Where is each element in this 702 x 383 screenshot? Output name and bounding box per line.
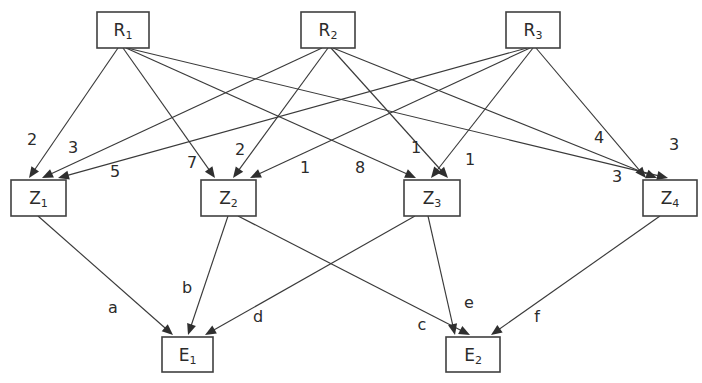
node-label-subscript: 3 <box>434 197 441 210</box>
nodes-layer: R1R2R3Z1Z2Z3Z4E1E2 <box>11 12 697 372</box>
node-e1[interactable]: E1 <box>162 337 213 372</box>
edge-labels-layer: 271332145183abedcf <box>27 128 679 334</box>
edges-layer <box>29 48 668 335</box>
edge-line <box>190 216 228 329</box>
edge-line <box>38 216 168 331</box>
edge-label: a <box>108 298 118 317</box>
edge-label: 8 <box>355 158 365 177</box>
edge-line <box>127 48 662 177</box>
edge-line <box>238 216 465 332</box>
edge-label: e <box>464 293 474 312</box>
arrowhead-icon <box>656 171 668 180</box>
diagram-canvas: R1R2R3Z1Z2Z3Z4E1E2 271332145183abedcf <box>0 0 702 383</box>
edge-line <box>333 48 651 176</box>
edge-label: 2 <box>27 130 37 149</box>
edge-line <box>435 48 533 173</box>
node-r2[interactable]: R2 <box>301 12 355 48</box>
node-r1[interactable]: R1 <box>97 12 149 48</box>
node-label-subscript: 1 <box>125 29 132 42</box>
node-label-subscript: 4 <box>672 197 679 210</box>
edge-r3-z3 <box>431 48 533 178</box>
arrowhead-icon <box>205 326 217 335</box>
edge-label: 5 <box>110 162 120 181</box>
edge-line <box>496 216 660 332</box>
edge-label: 2 <box>235 140 245 159</box>
edge-line <box>210 216 415 332</box>
edge-line <box>428 216 454 329</box>
edge-label: c <box>418 315 427 334</box>
node-label-subscript: 1 <box>189 354 196 367</box>
edge-r1-z1 <box>29 48 118 178</box>
node-label-subscript: 3 <box>535 29 542 42</box>
edge-label: 3 <box>68 138 78 157</box>
edge-label: 1 <box>411 138 421 157</box>
edge-label: 3 <box>669 135 679 154</box>
node-z3[interactable]: Z3 <box>404 180 460 216</box>
edge-r2-z4 <box>333 48 657 178</box>
edge-z2-e1 <box>187 216 228 335</box>
arrowhead-icon <box>187 323 196 335</box>
node-r3[interactable]: R3 <box>506 12 560 48</box>
node-label-subscript: 2 <box>330 29 337 42</box>
arrowhead-icon <box>233 166 243 178</box>
arrowhead-icon <box>645 170 657 179</box>
edge-r3-z1 <box>58 48 527 179</box>
node-z2[interactable]: Z2 <box>201 180 256 216</box>
node-label-subscript: 1 <box>41 197 48 210</box>
edge-label: b <box>182 278 192 297</box>
node-z1[interactable]: Z1 <box>11 180 66 216</box>
edge-z4-e2 <box>491 216 660 335</box>
edge-label: f <box>534 307 540 326</box>
node-z4[interactable]: Z4 <box>643 180 697 216</box>
graph-svg: R1R2R3Z1Z2Z3Z4E1E2 271332145183abedcf <box>0 0 702 383</box>
edge-label: 1 <box>465 150 475 169</box>
edge-label: d <box>253 307 263 326</box>
edge-line <box>536 48 642 173</box>
arrowhead-icon <box>29 166 39 178</box>
edge-z1-e1 <box>38 216 173 335</box>
node-label-subscript: 2 <box>475 354 482 367</box>
arrowhead-icon <box>205 166 215 178</box>
node-label-subscript: 2 <box>231 197 238 210</box>
edge-z3-e1 <box>205 216 415 335</box>
edge-label: 1 <box>300 158 310 177</box>
edge-line <box>331 48 444 174</box>
node-e2[interactable]: E2 <box>446 337 500 372</box>
edge-label: 4 <box>594 128 604 147</box>
edge-r3-z4 <box>536 48 646 178</box>
arrowhead-icon <box>448 323 457 335</box>
edge-z3-e2 <box>428 216 457 335</box>
edge-label: 7 <box>187 153 197 172</box>
edge-label: 3 <box>612 167 622 186</box>
arrowhead-icon <box>58 171 70 180</box>
edge-r1-z4 <box>127 48 668 180</box>
arrowhead-icon <box>491 325 503 335</box>
edge-z2-e2 <box>238 216 470 335</box>
